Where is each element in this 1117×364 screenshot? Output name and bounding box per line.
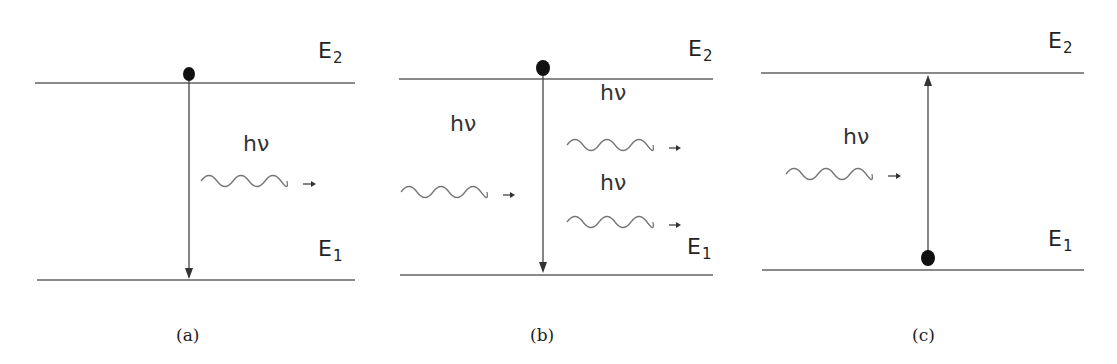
arrowhead-up-icon: [924, 75, 932, 86]
lower-level-label-a: E1: [318, 238, 342, 264]
incident-photon-energy-label: hν: [450, 113, 476, 135]
panel-c: [761, 73, 1084, 270]
emitted-photon-energy-label-1: hν: [600, 82, 626, 104]
energy-subscript: 2: [333, 49, 343, 67]
energy-subscript: 2: [703, 47, 713, 65]
emitted-photon-wave-2-icon: [567, 217, 653, 228]
electron-dot: [183, 67, 195, 81]
energy-level-diagram: E2 E1 hν E2 E1 hν hν hν E2 E1 hν (a) (b)…: [0, 0, 1117, 364]
upper-level-label-a: E2: [318, 40, 342, 66]
energy-symbol: E: [1048, 226, 1062, 251]
lower-level-label-b: E1: [687, 236, 711, 262]
caption-a: (a): [176, 327, 199, 344]
energy-subscript: 2: [1063, 39, 1073, 57]
energy-symbol: E: [687, 234, 701, 259]
photon-arrowhead-icon: [676, 222, 681, 228]
photon-wave-icon: [786, 169, 872, 180]
energy-symbol: E: [318, 236, 332, 261]
photon-arrowhead-icon: [311, 181, 316, 187]
energy-subscript: 1: [1063, 237, 1073, 255]
photon-energy-label: hν: [843, 126, 869, 148]
lower-level-label-c: E1: [1048, 228, 1072, 254]
photon-energy-label: hν: [243, 133, 269, 155]
emitted-photon-wave-1-icon: [567, 140, 653, 151]
photon-wave-icon: [201, 176, 287, 187]
arrowhead-down-icon: [539, 262, 547, 273]
arrowhead-down-icon: [185, 268, 193, 279]
energy-subscript: 1: [702, 245, 712, 263]
photon-arrowhead-icon: [896, 173, 901, 179]
energy-symbol: E: [1048, 28, 1062, 53]
photon-arrowhead-icon: [510, 192, 515, 198]
caption-b: (b): [530, 327, 554, 344]
upper-level-label-c: E2: [1048, 30, 1072, 56]
photon-arrowhead-icon: [676, 145, 681, 151]
upper-level-label-b: E2: [688, 38, 712, 64]
incident-photon-wave-icon: [401, 187, 487, 198]
emitted-photon-energy-label-2: hν: [600, 172, 626, 194]
panel-a: [35, 67, 355, 280]
energy-subscript: 1: [333, 247, 343, 265]
panel-b: [399, 60, 713, 275]
caption-c: (c): [912, 327, 935, 344]
energy-symbol: E: [318, 38, 332, 63]
diagram-graphics: [0, 0, 1117, 364]
electron-dot: [921, 250, 935, 266]
electron-dot: [536, 60, 550, 76]
energy-symbol: E: [688, 36, 702, 61]
